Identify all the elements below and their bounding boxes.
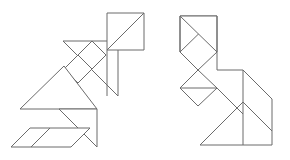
tangram-illustration <box>0 0 290 160</box>
left-parallelogram <box>11 128 90 147</box>
right-upper-v-left <box>180 52 198 70</box>
right-tangram-figure <box>180 16 272 145</box>
right-lower-left-diagonal <box>200 102 243 145</box>
tangram-svg-canvas <box>0 0 290 160</box>
right-upper-body-slope <box>243 70 272 99</box>
right-diamond-to-spine-edge <box>217 88 243 114</box>
left-tangram-figure <box>11 13 144 147</box>
right-upper-v-right <box>198 52 217 70</box>
right-lower-right-diagonal <box>243 102 272 131</box>
